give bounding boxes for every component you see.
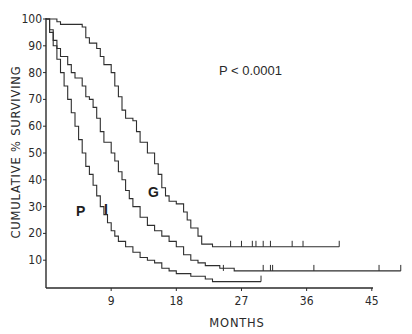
y-tick-label: 30 bbox=[28, 200, 42, 214]
curve-p bbox=[46, 19, 261, 282]
survival-chart: 102030405060708090100 918273645 P < 0.00… bbox=[0, 0, 412, 334]
survival-curves bbox=[46, 19, 401, 282]
curve-label-g: G bbox=[148, 184, 159, 200]
y-tick-label: 90 bbox=[28, 39, 42, 53]
p-value-annotation: P < 0.0001 bbox=[219, 63, 282, 78]
curve-g bbox=[46, 19, 339, 247]
x-tick-label: 36 bbox=[300, 294, 314, 308]
x-axis-ticks: 918273645 bbox=[108, 288, 379, 308]
curve-i bbox=[46, 19, 401, 271]
curve-path-g bbox=[46, 19, 339, 247]
y-axis-ticks: 102030405060708090100 bbox=[21, 12, 46, 267]
curve-path-p bbox=[46, 19, 261, 282]
x-tick-label: 45 bbox=[365, 294, 379, 308]
y-tick-label: 10 bbox=[28, 253, 42, 267]
y-tick-label: 100 bbox=[21, 12, 42, 26]
x-tick-label: 18 bbox=[169, 294, 183, 308]
x-tick-label: 9 bbox=[108, 294, 115, 308]
y-tick-label: 20 bbox=[28, 226, 42, 240]
curve-label-p: P bbox=[76, 203, 85, 219]
y-tick-label: 60 bbox=[28, 119, 42, 133]
curve-label-i: I bbox=[104, 201, 108, 217]
y-tick-label: 80 bbox=[28, 66, 42, 80]
curve-path-i bbox=[46, 19, 401, 271]
y-tick-label: 50 bbox=[28, 146, 42, 160]
y-tick-label: 40 bbox=[28, 173, 42, 187]
y-axis-label: CUMULATIVE % SURVIVING bbox=[9, 66, 23, 239]
x-tick-label: 27 bbox=[235, 294, 249, 308]
x-axis-label: MONTHS bbox=[209, 316, 264, 330]
y-tick-label: 70 bbox=[28, 92, 42, 106]
